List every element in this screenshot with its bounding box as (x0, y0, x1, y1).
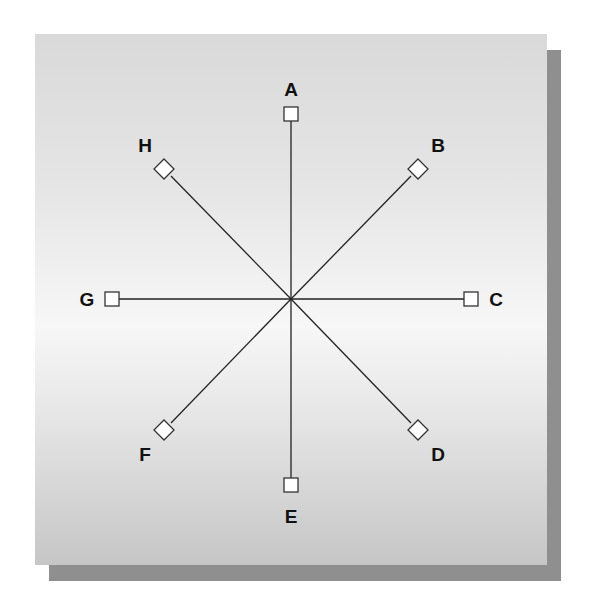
node-a-square[interactable] (284, 107, 298, 121)
label-d: D (431, 444, 445, 465)
node-g-square[interactable] (105, 292, 119, 306)
spokes (119, 121, 464, 478)
spoke-d (291, 299, 411, 423)
label-b: B (431, 135, 445, 156)
node-c-square[interactable] (464, 292, 478, 306)
spoke-h (171, 176, 291, 299)
label-c: C (489, 289, 503, 310)
spoke-b (291, 176, 411, 299)
node-e-square[interactable] (284, 478, 298, 492)
label-h: H (138, 135, 152, 156)
star-diagram: A B C D E F G H (0, 0, 589, 607)
label-e: E (285, 506, 298, 527)
label-f: F (139, 444, 151, 465)
label-g: G (80, 289, 95, 310)
spoke-f (171, 299, 291, 423)
label-a: A (284, 79, 298, 100)
